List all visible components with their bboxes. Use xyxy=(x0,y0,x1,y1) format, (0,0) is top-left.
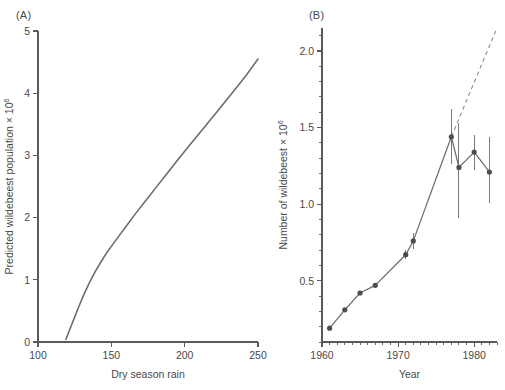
y-tick-label: 4 xyxy=(24,87,30,99)
panel-a-axes xyxy=(33,31,258,347)
panel-a-curve xyxy=(66,59,258,340)
data-point-marker xyxy=(403,252,408,257)
y-tick-label: 0.5 xyxy=(299,275,314,287)
panel-a-tick-labels: 012345100150200250 xyxy=(24,25,267,361)
x-tick-label: 200 xyxy=(176,349,194,361)
y-axis-title-text: Number of wildebeest × 106 xyxy=(277,120,289,249)
panel-a: (A) 012345100150200250 Dry season rain P… xyxy=(0,0,275,390)
x-tick-label: 250 xyxy=(249,349,267,361)
y-tick-label: 1 xyxy=(24,274,30,286)
panel-b-projection-line xyxy=(451,28,497,137)
panel-b-axes xyxy=(317,28,497,347)
panel-a-y-axis-title: Predicted wildebeest population × 106 xyxy=(3,98,15,274)
data-point-marker xyxy=(373,283,378,288)
data-point-marker xyxy=(472,149,477,154)
data-point-marker xyxy=(357,290,362,295)
y-tick-label: 1.5 xyxy=(299,121,314,133)
panel-b-y-axis-title: Number of wildebeest × 106 xyxy=(277,120,289,249)
y-tick-label: 0 xyxy=(24,336,30,348)
figure-two-panel-wildebeest: (A) 012345100150200250 Dry season rain P… xyxy=(0,0,505,390)
y-tick-label: 3 xyxy=(24,149,30,161)
x-tick-label: 100 xyxy=(29,349,47,361)
y-axis-title-text: Predicted wildebeest population × 106 xyxy=(3,98,15,274)
panel-b-error-bars xyxy=(406,109,490,259)
panel-b-plot: 0.51.01.52.0196019701980 Year Number of … xyxy=(275,0,505,390)
data-point-marker xyxy=(449,134,454,139)
x-tick-label: 1980 xyxy=(462,349,486,361)
data-point-marker xyxy=(411,238,416,243)
x-tick-label: 150 xyxy=(103,349,121,361)
y-tick-label: 1.0 xyxy=(299,198,314,210)
y-tick-label: 5 xyxy=(24,25,30,37)
x-tick-label: 1970 xyxy=(386,349,410,361)
x-tick-label: 1960 xyxy=(310,349,334,361)
data-point-marker xyxy=(487,169,492,174)
y-tick-label: 2 xyxy=(24,211,30,223)
panel-b-tick-labels: 0.51.01.52.0196019701980 xyxy=(299,45,486,361)
panel-a-plot: 012345100150200250 Dry season rain Predi… xyxy=(0,0,275,390)
data-point-marker xyxy=(456,165,461,170)
panel-b-series-line xyxy=(330,137,490,328)
panel-b: (B) 0.51.01.52.0196019701980 Year Number… xyxy=(275,0,505,390)
data-point-marker xyxy=(327,326,332,331)
panel-a-x-axis-title: Dry season rain xyxy=(111,368,185,380)
panel-b-x-axis-title: Year xyxy=(399,368,421,380)
y-tick-label: 2.0 xyxy=(299,45,314,57)
data-point-marker xyxy=(342,307,347,312)
panel-b-label: (B) xyxy=(309,9,324,21)
panel-a-label: (A) xyxy=(16,9,31,21)
